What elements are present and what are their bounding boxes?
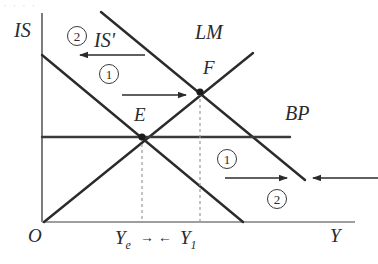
point-f-label: F (203, 58, 215, 77)
tick-arrow-right-icon: → (140, 231, 154, 245)
tick-y1-base: Y (180, 227, 191, 248)
is-prime-curve-label: IS' (94, 30, 115, 50)
point-e-label: E (134, 105, 146, 124)
tick-arrow-left-icon: ← (158, 231, 172, 245)
is-curve-label: IS (14, 20, 31, 40)
tick-ye-subscript: e (126, 238, 131, 252)
tick-y1-subscript: 1 (191, 238, 197, 252)
step-badge-lower-two: 2 (267, 189, 287, 209)
lm-curve-label: LM (195, 22, 223, 42)
is-lm-bp-diagram: , , , , (0, 0, 378, 264)
tick-ye-base: Y (115, 227, 126, 248)
x-axis-label: Y (330, 226, 341, 245)
point-f-marker (196, 88, 203, 95)
step-badge-upper-two: 2 (67, 26, 87, 46)
tick-label-y1: Y1 (180, 228, 197, 251)
step-badge-upper-one: 1 (99, 64, 119, 84)
step-badge-lower-one: 1 (217, 149, 237, 169)
bp-curve-label: BP (285, 103, 309, 123)
tick-label-ye: Ye (115, 228, 131, 251)
origin-label: O (28, 226, 42, 245)
diagram-canvas (0, 0, 378, 264)
point-e-marker (138, 133, 145, 140)
